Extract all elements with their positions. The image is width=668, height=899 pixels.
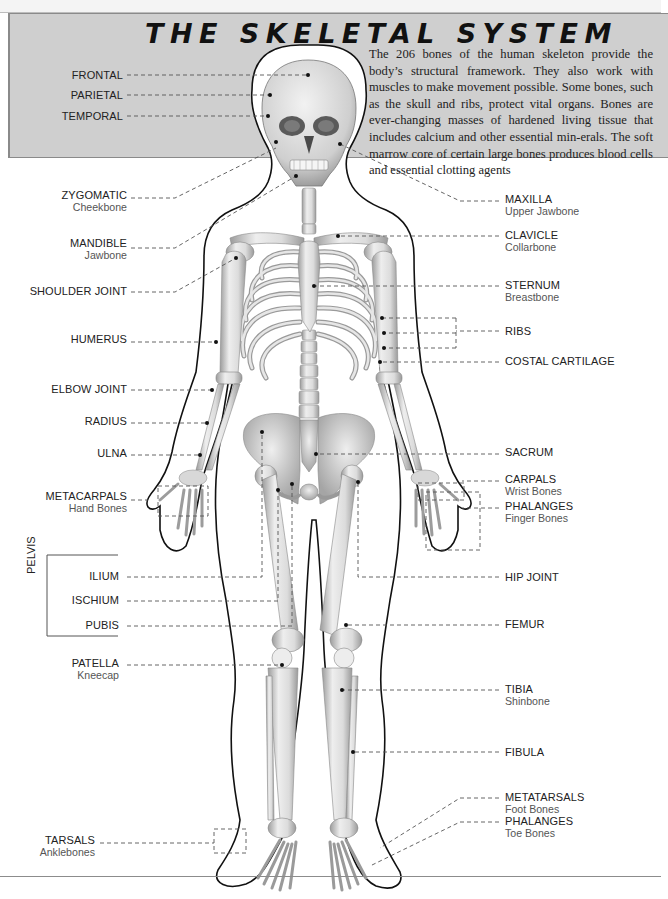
label-sacrum: SACRUM [505, 446, 553, 458]
label-ribs: RIBS [505, 325, 531, 337]
label-tibia: TIBIAShinbone [505, 683, 550, 707]
label-mandible: MANDIBLEJawbone [70, 237, 127, 261]
label-zygomatic: ZYGOMATICCheekbone [62, 189, 127, 213]
pelvis-group-label: PELVIS [25, 536, 37, 574]
feet [258, 840, 366, 890]
label-carpals: CARPALSWrist Bones [505, 473, 562, 497]
label-ischium: ISCHIUM [72, 594, 119, 606]
intro-paragraph: The 206 bones of the human skeleton prov… [369, 46, 653, 179]
label-ilium: ILIUM [89, 570, 119, 582]
label-femur: FEMUR [505, 618, 545, 630]
label-phalanges-fingers: PHALANGESFinger Bones [505, 500, 573, 524]
label-hip-joint: HIP JOINT [505, 571, 559, 583]
label-metacarpals: METACARPALSHand Bones [46, 490, 127, 514]
label-tarsals: TARSALSAnklebones [40, 834, 95, 858]
label-costal-cartilage: COSTAL CARTILAGE [505, 355, 615, 367]
label-frontal: FRONTAL [72, 69, 123, 81]
label-humerus: HUMERUS [71, 333, 127, 345]
label-phalanges-toes: PHALANGESToe Bones [505, 815, 573, 839]
label-ulna: ULNA [97, 447, 127, 459]
label-fibula: FIBULA [505, 746, 544, 758]
label-maxilla: MAXILLAUpper Jawbone [505, 193, 579, 217]
label-metatarsals: METATARSALSFoot Bones [505, 791, 584, 815]
label-patella: PATELLAKneecap [72, 657, 119, 681]
label-pubis: PUBIS [85, 619, 119, 631]
label-elbow-joint: ELBOW JOINT [51, 383, 127, 395]
bottom-rule [0, 876, 661, 877]
label-shoulder-joint: SHOULDER JOINT [30, 285, 127, 297]
label-parietal: PARIETAL [71, 89, 123, 101]
label-sternum: STERNUMBreastbone [505, 279, 560, 303]
label-radius: RADIUS [85, 415, 127, 427]
label-temporal: TEMPORAL [62, 110, 123, 122]
page-title: THE SKELETAL SYSTEM [145, 18, 618, 49]
label-clavicle: CLAVICLECollarbone [505, 229, 558, 253]
